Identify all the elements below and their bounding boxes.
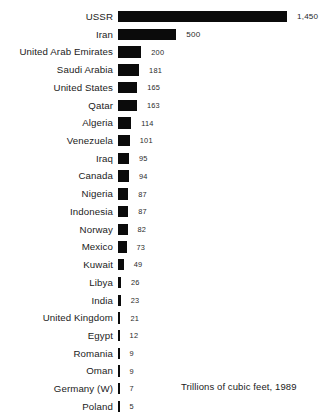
- bar: [118, 259, 124, 270]
- category-label: United Kingdom: [0, 312, 113, 323]
- bar: [118, 365, 120, 376]
- category-label: USSR: [0, 11, 113, 22]
- category-label: Nigeria: [0, 188, 113, 199]
- bar-row: Mexico73: [0, 241, 328, 259]
- category-label: Egypt: [0, 330, 113, 341]
- bar-row: United Kingdom21: [0, 312, 328, 330]
- bar-row: Kuwait49: [0, 259, 328, 277]
- bar: [118, 82, 137, 93]
- category-label: Romania: [0, 348, 113, 359]
- bar-track: 82: [118, 224, 287, 235]
- bar-row: United Arab Emirates200: [0, 46, 328, 64]
- bar-track: 181: [118, 64, 287, 75]
- value-label: 87: [138, 207, 147, 216]
- clipped-title: [0, 0, 328, 6]
- value-label: 26: [131, 278, 140, 287]
- bar-row: Egypt12: [0, 330, 328, 348]
- bar-track: 1,450: [118, 11, 287, 22]
- bar-row: Iran500: [0, 29, 328, 47]
- bar-track: 101: [118, 135, 287, 146]
- value-label: 5: [130, 402, 134, 411]
- category-label: Germany (W): [0, 383, 113, 394]
- value-label: 87: [138, 190, 147, 199]
- category-label: United States: [0, 82, 113, 93]
- bar: [118, 135, 130, 146]
- bar: [118, 29, 176, 40]
- bar: [118, 401, 120, 412]
- bar-track: 21: [118, 312, 287, 323]
- bar-row: Saudi Arabia181: [0, 64, 328, 82]
- bar-row: Qatar163: [0, 100, 328, 118]
- value-label: 200: [151, 48, 164, 57]
- bar-row: Romania9: [0, 348, 328, 366]
- value-label: 49: [134, 260, 143, 269]
- category-label: Iran: [0, 29, 113, 40]
- category-label: Libya: [0, 277, 113, 288]
- value-label: 7: [130, 384, 134, 393]
- bar: [118, 224, 128, 235]
- bar-row: Norway82: [0, 224, 328, 242]
- bar-track: 9: [118, 365, 287, 376]
- bar-track: 94: [118, 170, 287, 181]
- bar-track: 95: [118, 153, 287, 164]
- bar: [118, 330, 120, 341]
- category-label: Venezuela: [0, 135, 113, 146]
- bar-track: 23: [118, 295, 287, 306]
- category-label: Norway: [0, 224, 113, 235]
- category-label: Qatar: [0, 100, 113, 111]
- bar-row: India23: [0, 295, 328, 313]
- value-label: 9: [130, 349, 134, 358]
- category-label: Saudi Arabia: [0, 64, 113, 75]
- category-label: Algeria: [0, 117, 113, 128]
- value-label: 12: [130, 331, 139, 340]
- category-label: Iraq: [0, 153, 113, 164]
- chart-footnote: Trillions of cubic feet, 1989: [181, 381, 297, 392]
- bar: [118, 241, 127, 252]
- bar-chart: USSR1,450Iran500United Arab Emirates200S…: [0, 0, 328, 417]
- bar-track: 200: [118, 46, 287, 57]
- bar-row: Nigeria87: [0, 188, 328, 206]
- value-label: 114: [141, 119, 153, 128]
- bar-track: 87: [118, 188, 287, 199]
- bar-track: 163: [118, 100, 287, 111]
- bar-row: United States165: [0, 82, 328, 100]
- bar-rows: USSR1,450Iran500United Arab Emirates200S…: [0, 11, 328, 417]
- bar: [118, 206, 128, 217]
- value-label: 94: [139, 172, 148, 181]
- bar-row: Algeria114: [0, 117, 328, 135]
- bar-track: 500: [118, 29, 287, 40]
- bar-row: Canada94: [0, 170, 328, 188]
- bar: [118, 117, 131, 128]
- bar-track: 73: [118, 241, 287, 252]
- category-label: Poland: [0, 401, 113, 412]
- bar-track: 9: [118, 348, 287, 359]
- value-label: 95: [139, 154, 148, 163]
- value-label: 163: [147, 101, 160, 110]
- bar: [118, 348, 120, 359]
- bar-row: Iraq95: [0, 153, 328, 171]
- bar: [118, 64, 139, 75]
- bar-row: Poland5: [0, 401, 328, 417]
- category-label: India: [0, 295, 113, 306]
- bar: [118, 277, 121, 288]
- bar-track: 26: [118, 277, 287, 288]
- value-label: 21: [130, 314, 139, 323]
- value-label: 23: [131, 296, 140, 305]
- bar-track: 12: [118, 330, 287, 341]
- value-label: 73: [137, 243, 146, 252]
- bar: [118, 383, 120, 394]
- bar-track: 49: [118, 259, 287, 270]
- bar-track: 5: [118, 401, 287, 412]
- category-label: Kuwait: [0, 259, 113, 270]
- category-label: Indonesia: [0, 206, 113, 217]
- bar-row: USSR1,450: [0, 11, 328, 29]
- bar: [118, 153, 129, 164]
- value-label: 101: [140, 136, 153, 145]
- value-label: 82: [138, 225, 147, 234]
- bar: [118, 188, 128, 199]
- category-label: Canada: [0, 170, 113, 181]
- bar: [118, 170, 129, 181]
- value-label: 181: [149, 66, 162, 75]
- category-label: United Arab Emirates: [0, 46, 113, 57]
- bar-track: 165: [118, 82, 287, 93]
